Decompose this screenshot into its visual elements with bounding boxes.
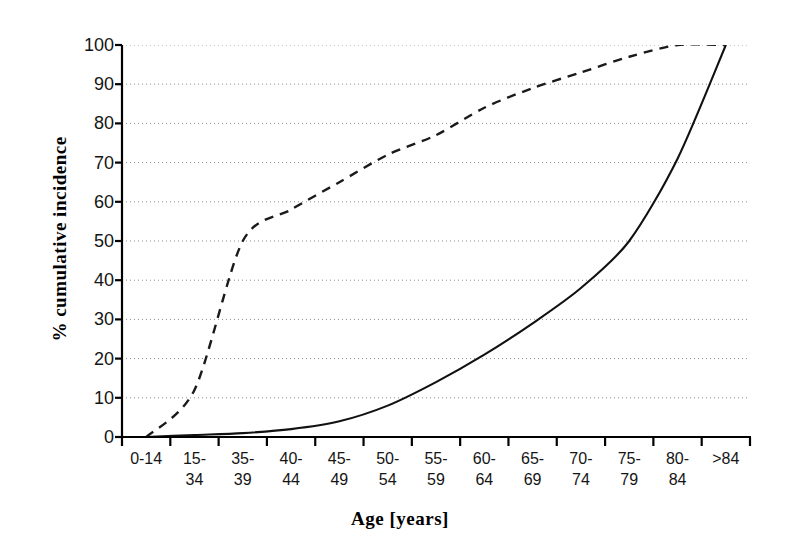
x-tick-label: 65- 69 xyxy=(521,448,544,490)
y-tick-label: 60 xyxy=(54,191,114,212)
chart-figure: % cumulative incidence 01020304050607080… xyxy=(0,0,800,559)
y-tick-label: 70 xyxy=(54,152,114,173)
plot-area xyxy=(122,45,750,437)
y-axis-tick-labels: 0102030405060708090100 xyxy=(54,45,114,437)
x-tick-label: 75- 79 xyxy=(618,448,641,490)
x-tick-label: 40- 44 xyxy=(280,448,303,490)
y-tick-label: 10 xyxy=(54,387,114,408)
y-tick-label: 50 xyxy=(54,231,114,252)
x-tick-label: 15- 34 xyxy=(183,448,206,490)
x-axis-title-wrapper: Age [years] xyxy=(0,508,800,530)
y-tick-label: 20 xyxy=(54,348,114,369)
chart-canvas xyxy=(122,45,750,437)
y-tick-label: 40 xyxy=(54,270,114,291)
x-axis-title: Age [years] xyxy=(351,508,449,529)
gridlines-group xyxy=(122,45,750,437)
x-tick-label: 50- 54 xyxy=(376,448,399,490)
x-axis-tick-labels: 0-1415- 3435- 3940- 4445- 4950- 5455- 59… xyxy=(122,448,750,502)
y-tick-label: 100 xyxy=(54,35,114,56)
y-tick-label: 90 xyxy=(54,74,114,95)
x-tick-label: 35- 39 xyxy=(231,448,254,490)
x-tick-label: 80- 84 xyxy=(666,448,689,490)
x-tick-label: 70- 74 xyxy=(569,448,592,490)
y-tick-label: 80 xyxy=(54,113,114,134)
x-tick-label: 45- 49 xyxy=(328,448,351,490)
y-tick-label: 0 xyxy=(54,427,114,448)
x-tick-label: 55- 59 xyxy=(424,448,447,490)
x-tick-label: 60- 64 xyxy=(473,448,496,490)
x-tick-label: 0-14 xyxy=(130,448,162,469)
y-tick-label: 30 xyxy=(54,309,114,330)
x-tick-label: >84 xyxy=(712,448,739,469)
